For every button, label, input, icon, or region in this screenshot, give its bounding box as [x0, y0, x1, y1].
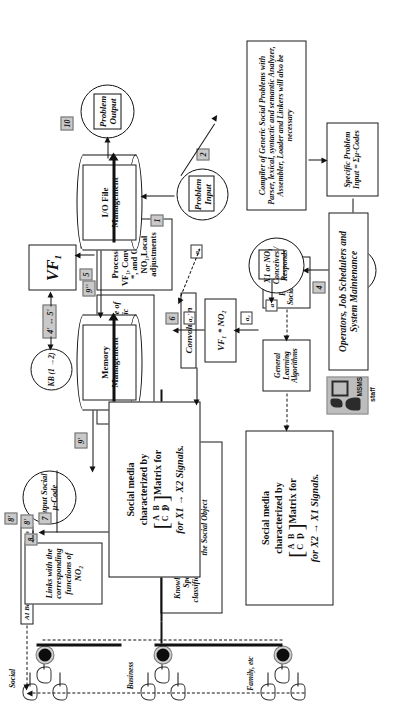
edge-label-a2-prime: a₂' — [183, 311, 195, 324]
badge-9[interactable]: 8' — [4, 512, 17, 524]
badge-7[interactable]: 7 — [38, 512, 51, 524]
msms-staff-icon: MSMS — [326, 376, 368, 414]
box-vf1-no2: VF₁ * NO₂ — [204, 298, 236, 362]
matrix-2: [ A B C D ] Matrix for 2 — [151, 449, 171, 528]
diagram-canvas: Social Business Family, etc — [0, 0, 401, 720]
box-general-learning: General Learning Algorithms — [262, 339, 310, 391]
badge-1[interactable]: 1 — [150, 214, 163, 226]
box-operators: Operators, Job Schedulers and System Mai… — [328, 212, 368, 370]
badge-9-double-prime[interactable]: 9'' — [82, 280, 95, 296]
badge-8-prime[interactable]: 8' — [20, 514, 33, 528]
box-memory-management: Memory Management — [82, 324, 136, 400]
box-specific-problem-input: Specific Problem Input = Σμ-Codes — [326, 122, 378, 196]
group-label-social: Social — [8, 658, 16, 698]
badge-4-5-prime[interactable]: 4' ↔ 5' — [42, 304, 56, 338]
box-social-media-x1-x2: Social media characterized by [ A B C D … — [108, 401, 200, 577]
badge-6[interactable]: 6 — [165, 312, 178, 324]
diagram-page: Social Business Family, etc — [0, 0, 401, 720]
edge-label-a2: a₂ — [240, 311, 252, 324]
badge-8[interactable]: 8 — [24, 533, 37, 545]
group-label-family: Family, etc — [246, 648, 254, 698]
msms-staff-label: staff — [368, 374, 376, 414]
matrix-1: [ A B C D ] Matrix for 1 — [286, 478, 306, 557]
badge-4[interactable]: 4 — [312, 281, 325, 293]
badge-10[interactable]: 10 — [60, 116, 73, 130]
group-label-business: Business — [126, 652, 134, 698]
box-io-file-management: I/O File Management — [82, 164, 136, 240]
box-compiler: Compiler of Generic Social Problems with… — [246, 40, 306, 210]
box-vf1: VF₁ — [28, 244, 76, 290]
circle-kb-1-2: KB (1 →2) — [30, 348, 72, 390]
box-social-media-x2-x1: Social media characterized by [ A B C D … — [245, 430, 333, 605]
badge-5[interactable]: 5 — [79, 268, 92, 280]
badge-9-prime[interactable]: 9' — [74, 432, 87, 448]
box-links-no2: Links with the corresponding functions o… — [24, 542, 102, 604]
